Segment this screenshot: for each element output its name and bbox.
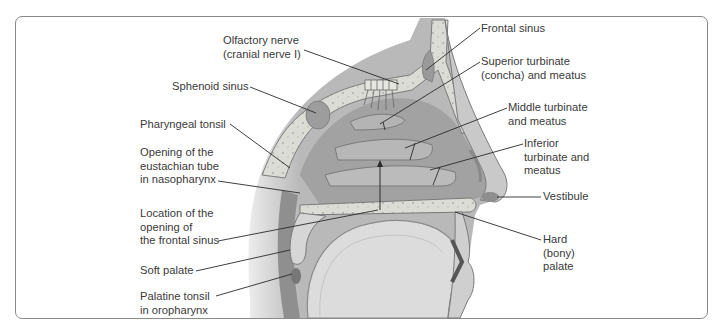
label-superior-turbinate: Superior turbinate (concha) and meatus <box>481 55 586 82</box>
label-olfactory-nerve: Olfactory nerve (cranial nerve I) <box>223 34 301 61</box>
label-inferior-turbinate: Inferior turbinate and meatus <box>524 137 589 178</box>
label-pharyngeal-tonsil: Pharyngeal tonsil <box>140 118 226 132</box>
label-soft-palate: Soft palate <box>140 264 194 278</box>
palatine-tonsil <box>291 268 301 284</box>
label-frontal-sinus-opening: Location of the opening of the frontal s… <box>140 207 219 248</box>
label-middle-turbinate: Middle turbinate and meatus <box>508 101 588 128</box>
label-eustachian-tube-opening: Opening of the eustachian tube in nasoph… <box>140 146 219 187</box>
sphenoid-sinus <box>306 101 330 129</box>
label-palatine-tonsil: Palatine tonsil in oropharynx <box>140 290 210 317</box>
label-frontal-sinus: Frontal sinus <box>481 22 545 36</box>
nasal-cavity-illustration <box>0 0 728 336</box>
label-hard-palate: Hard (bony) palate <box>543 233 575 274</box>
label-sphenoid-sinus: Sphenoid sinus <box>172 80 249 94</box>
vestibule <box>481 192 499 202</box>
label-vestibule: Vestibule <box>543 190 588 204</box>
